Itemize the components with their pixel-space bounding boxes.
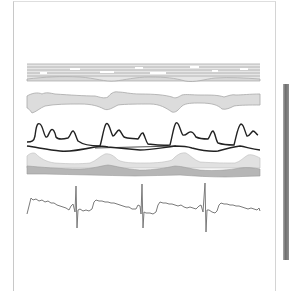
ecg-trace	[27, 183, 260, 232]
m-mode-stripes	[27, 64, 260, 82]
pressure-traces	[27, 123, 260, 151]
volume-bands	[27, 153, 260, 177]
flow-band	[27, 92, 260, 113]
